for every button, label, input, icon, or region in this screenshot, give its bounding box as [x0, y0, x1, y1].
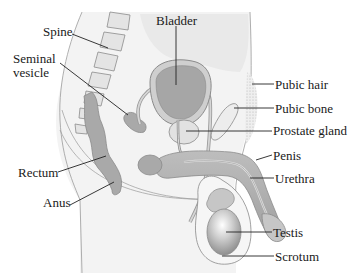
label-testis: Testis — [273, 226, 303, 239]
label-scrotum: Scrotum — [275, 250, 319, 263]
label-pubic-hair: Pubic hair — [275, 78, 328, 91]
label-urethra: Urethra — [275, 172, 315, 185]
label-rectum: Rectum — [18, 166, 58, 179]
prostate-gland-shape — [169, 120, 199, 144]
label-penis: Penis — [273, 149, 301, 162]
label-seminal-vesicle: Seminal vesicle — [13, 52, 56, 80]
label-pubic-bone: Pubic bone — [275, 102, 333, 115]
label-spine: Spine — [43, 25, 73, 38]
label-bladder: Bladder — [156, 14, 197, 27]
anatomy-diagram: Spine Seminal vesicle Bladder Pubic hair… — [0, 0, 354, 273]
label-anus: Anus — [43, 196, 70, 209]
penile-bulb-shape — [138, 155, 162, 175]
label-prostate-gland: Prostate gland — [273, 124, 347, 137]
